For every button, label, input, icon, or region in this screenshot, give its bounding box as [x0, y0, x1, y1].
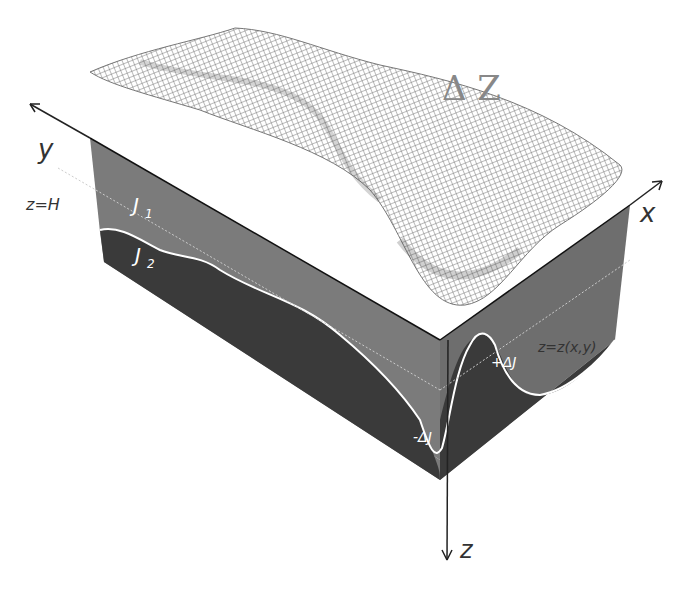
minus-delta-j-label: -ΔJ — [413, 429, 432, 445]
x-axis-label: x — [639, 198, 656, 228]
z-eq-h-label: z=H — [25, 195, 60, 214]
z-axis — [447, 340, 448, 560]
plus-delta-j-label: +ΔJ — [491, 354, 516, 370]
y-axis-label: y — [37, 134, 54, 164]
delta-z-label: Δ Z — [442, 68, 501, 108]
y-axis — [30, 104, 90, 138]
z-axis-label: z — [459, 536, 474, 564]
svg-text:2: 2 — [147, 257, 155, 271]
svg-text:1: 1 — [145, 207, 153, 221]
diagram-canvas: Δ Z y x z z=H z=z(x,y) J 1 J 2 +ΔJ -ΔJ — [0, 0, 700, 592]
interface-label: z=z(x,y) — [537, 339, 596, 355]
